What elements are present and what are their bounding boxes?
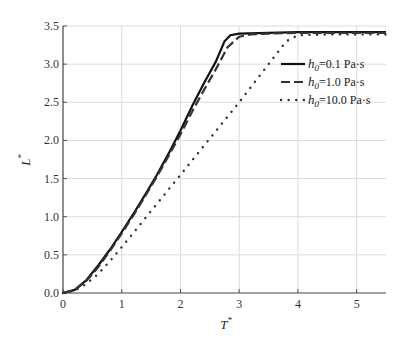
series-dashed-line <box>63 33 386 293</box>
x-tick-label: 2 <box>177 297 183 311</box>
legend-label: h0=10.0 Pa·s <box>308 92 371 109</box>
legend: h0=0.1 Pa·sh0=1.0 Pa·sh0=10.0 Pa·s <box>281 56 371 109</box>
y-tick-label: 0.0 <box>44 286 59 300</box>
series-dotted-line <box>63 34 386 293</box>
x-axis-label: T* <box>220 315 232 332</box>
x-tick-label: 3 <box>236 297 242 311</box>
y-tick-label: 3.5 <box>44 19 59 33</box>
legend-label: h0=1.0 Pa·s <box>308 74 365 91</box>
y-tick-label: 3.0 <box>44 57 59 71</box>
x-tick-label: 5 <box>354 297 360 311</box>
line-chart: 0123450.00.51.01.52.02.53.03.5 h0=0.1 Pa… <box>0 0 406 349</box>
series-solid-line <box>63 32 386 293</box>
x-tick-label: 4 <box>295 297 301 311</box>
y-tick-label: 0.5 <box>44 248 59 262</box>
series-lines <box>63 32 386 293</box>
x-tick-label: 1 <box>119 297 125 311</box>
y-axis-label: L* <box>16 154 33 167</box>
y-tick-label: 2.5 <box>44 95 59 109</box>
legend-label: h0=0.1 Pa·s <box>308 56 365 73</box>
y-tick-label: 1.5 <box>44 172 59 186</box>
y-tick-label: 2.0 <box>44 133 59 147</box>
y-tick-label: 1.0 <box>44 210 59 224</box>
x-tick-label: 0 <box>60 297 66 311</box>
